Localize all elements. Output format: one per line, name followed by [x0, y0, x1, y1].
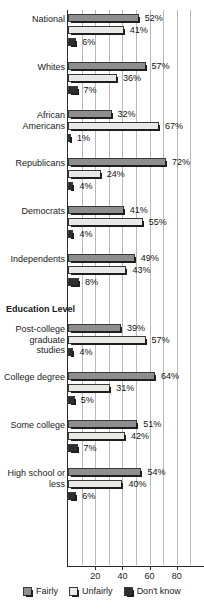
category-label: Democrats [0, 206, 65, 217]
bar-value-label: 52% [145, 12, 163, 24]
category-label: National [0, 14, 65, 25]
bar [68, 266, 126, 274]
bar-value-label: 51% [143, 418, 161, 430]
bar-value-label: 8% [85, 276, 98, 288]
chart-legend: FairlyUnfairlyDon't know [0, 586, 204, 596]
bar-value-label: 54% [147, 466, 165, 478]
gridline [150, 10, 151, 565]
bar [68, 384, 110, 392]
bar [68, 278, 79, 286]
bar [68, 62, 146, 70]
bar-value-label: 41% [130, 204, 148, 216]
bar [68, 372, 155, 380]
legend-label: Fairly [36, 586, 58, 596]
bar [68, 492, 76, 500]
category-label: High school or less [0, 468, 65, 489]
bar-value-label: 24% [107, 168, 125, 180]
bar-value-label: 43% [132, 264, 150, 276]
x-axis-line [67, 566, 204, 567]
bar [68, 230, 73, 238]
bar-value-label: 64% [161, 370, 179, 382]
bar [68, 218, 143, 226]
category-label: Independents [0, 254, 65, 265]
bar-value-label: 6% [82, 490, 95, 502]
legend-swatch [23, 587, 32, 596]
x-tick-label: 60 [145, 571, 155, 581]
x-tick [122, 566, 123, 570]
bar-value-label: 5% [81, 394, 94, 406]
legend-label: Unfairly [82, 586, 113, 596]
bar [68, 14, 139, 22]
bar [68, 336, 146, 344]
bar-value-label: 57% [152, 334, 170, 346]
category-label: African Americans [0, 110, 65, 131]
bar [68, 86, 78, 94]
bar-value-label: 67% [165, 120, 183, 132]
category-label: Republicans [0, 158, 65, 169]
gridline [177, 10, 178, 565]
category-label: College degree [0, 372, 65, 383]
bar [68, 420, 137, 428]
x-tick-label: 20 [90, 571, 100, 581]
plot-area: 52%41%6%57%36%7%32%67%1%72%24%4%41%55%4%… [68, 10, 204, 565]
bar-value-label: 4% [79, 346, 92, 358]
bar-value-label: 57% [152, 60, 170, 72]
x-tick-label: 80 [172, 571, 182, 581]
bar-chart: 52%41%6%57%36%7%32%67%1%72%24%4%41%55%4%… [0, 0, 204, 611]
x-tick [95, 566, 96, 570]
bar [68, 26, 124, 34]
bar [68, 206, 124, 214]
bar-value-label: 4% [79, 180, 92, 192]
bar [68, 158, 166, 166]
bar-value-label: 72% [172, 156, 190, 168]
bar-value-label: 55% [149, 216, 167, 228]
bar-value-label: 39% [127, 322, 145, 334]
category-group-header: Education Level [6, 304, 86, 315]
legend-swatch [124, 587, 133, 596]
legend-swatch [69, 587, 78, 596]
bar-value-label: 49% [141, 252, 159, 264]
bar-value-label: 7% [84, 442, 97, 454]
y-axis-line [67, 10, 68, 566]
legend-item: Unfairly [69, 586, 113, 596]
bar [68, 110, 112, 118]
bar [68, 324, 121, 332]
category-label: Post-college graduate studies [0, 324, 65, 356]
category-label: Some college [0, 420, 65, 431]
bar [68, 444, 78, 452]
gridline [122, 10, 123, 565]
bar [68, 468, 141, 476]
bar [68, 122, 159, 130]
bar-value-label: 36% [123, 72, 141, 84]
bar [68, 480, 122, 488]
legend-item: Fairly [23, 586, 58, 596]
bar [68, 182, 73, 190]
bar-value-label: 41% [130, 24, 148, 36]
gridline [190, 10, 191, 565]
bar-value-label: 32% [118, 108, 136, 120]
bar-value-label: 42% [131, 430, 149, 442]
bar-value-label: 7% [84, 84, 97, 96]
bar [68, 170, 101, 178]
legend-label: Don't know [137, 586, 181, 596]
bar-value-label: 1% [77, 132, 90, 144]
bar [68, 348, 73, 356]
bar [68, 254, 135, 262]
legend-item: Don't know [124, 586, 181, 596]
bar [68, 432, 125, 440]
bar [68, 396, 75, 404]
bar-value-label: 31% [116, 382, 134, 394]
bar [68, 134, 71, 142]
bar-value-label: 4% [79, 228, 92, 240]
x-tick-label: 40 [117, 571, 127, 581]
x-tick [150, 566, 151, 570]
bar [68, 74, 117, 82]
bar [68, 38, 76, 46]
gridline [163, 10, 164, 565]
category-label: Whites [0, 62, 65, 73]
x-tick [177, 566, 178, 570]
bar-value-label: 6% [82, 36, 95, 48]
bar-value-label: 40% [128, 478, 146, 490]
